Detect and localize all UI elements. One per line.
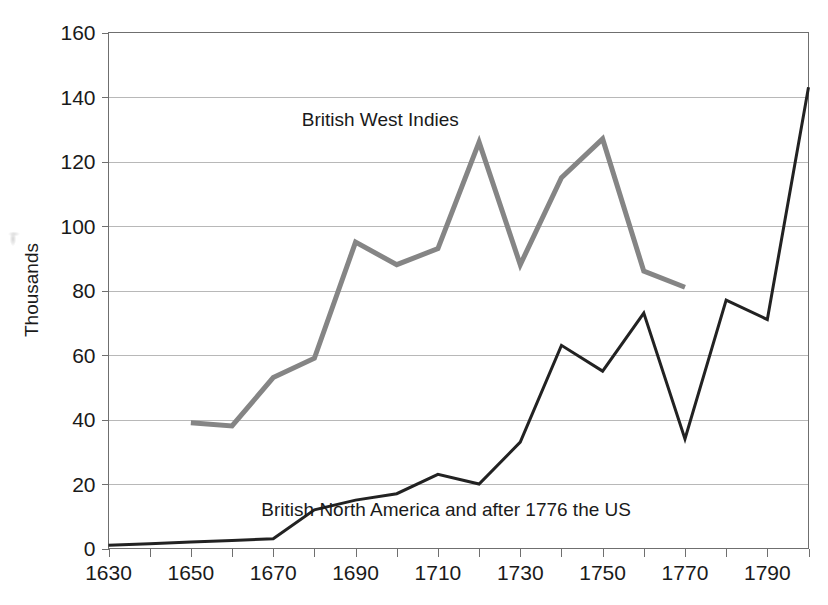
line-chart: 020406080100120140160 163016501670169017… xyxy=(0,0,828,605)
series-line-0 xyxy=(191,139,685,426)
y-tick-label-160: 160 xyxy=(60,21,95,44)
chart-figure: 020406080100120140160 163016501670169017… xyxy=(0,0,828,605)
x-tick-label-1790: 1790 xyxy=(744,561,791,584)
y-tick-label-60: 60 xyxy=(72,344,95,367)
y-tick-label-40: 40 xyxy=(72,408,95,431)
y-tick-label-120: 120 xyxy=(60,150,95,173)
x-tick-label-1750: 1750 xyxy=(579,561,626,584)
series-label-0: British West Indies xyxy=(302,109,459,130)
y-tick-label-0: 0 xyxy=(84,537,96,560)
x-tick-label-1710: 1710 xyxy=(415,561,462,584)
x-tick-label-1650: 1650 xyxy=(167,561,214,584)
y-tick-label-100: 100 xyxy=(60,215,95,238)
series-lines-group xyxy=(109,87,809,545)
x-axis-ticks xyxy=(110,549,810,557)
x-tick-label-1770: 1770 xyxy=(662,561,709,584)
series-label-1: British North America and after 1776 the… xyxy=(261,499,631,520)
y-tick-label-80: 80 xyxy=(72,279,95,302)
y-tick-label-20: 20 xyxy=(72,473,95,496)
x-tick-label-1670: 1670 xyxy=(250,561,297,584)
x-tick-label-1730: 1730 xyxy=(497,561,544,584)
x-axis-tick-labels: 163016501670169017101730175017701790 xyxy=(85,561,791,584)
series-labels-group: British West IndiesBritish North America… xyxy=(261,109,631,520)
x-tick-label-1630: 1630 xyxy=(85,561,132,584)
y-axis-ticks xyxy=(102,34,109,550)
series-line-1 xyxy=(109,87,809,545)
y-tick-label-140: 140 xyxy=(60,86,95,109)
y-axis-title: Thousands xyxy=(21,243,42,337)
y-axis-tick-labels: 020406080100120140160 xyxy=(60,21,95,560)
x-tick-label-1690: 1690 xyxy=(332,561,379,584)
